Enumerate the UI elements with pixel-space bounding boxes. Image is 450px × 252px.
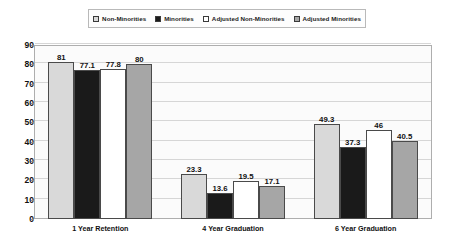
bar-value-label: 49.3 (319, 115, 334, 124)
legend-label: Non-Minorities (102, 15, 146, 22)
x-axis-category-label: 4 Year Graduation (202, 224, 263, 233)
x-axis-category-label: 1 Year Retention (72, 224, 128, 233)
bar-value-label: 23.3 (186, 165, 201, 174)
legend-swatch-icon (93, 16, 99, 22)
bar[interactable]: 19.5 (233, 181, 259, 219)
gridline (35, 43, 431, 44)
bar-value-label: 40.5 (397, 132, 412, 141)
bar[interactable]: 77.1 (74, 70, 100, 219)
y-axis-tick-mark (31, 219, 34, 220)
bar[interactable]: 23.3 (181, 174, 207, 219)
bar[interactable]: 37.3 (340, 147, 366, 219)
x-axis-labels: 1 Year Retention4 Year Graduation6 Year … (34, 224, 432, 238)
legend-label: Adjusted Non-Minorities (212, 15, 285, 22)
bar-value-label: 46 (374, 121, 383, 130)
bar-value-label: 77.1 (80, 61, 95, 70)
bar[interactable]: 46 (366, 130, 392, 219)
bar-group: 8177.177.880 (48, 45, 152, 219)
bar-value-label: 77.8 (106, 60, 121, 69)
bar-chart: Non-Minorities Minorities Adjusted Non-M… (0, 0, 450, 252)
bar[interactable]: 80 (126, 64, 152, 219)
bar[interactable]: 49.3 (314, 124, 340, 219)
bar[interactable]: 77.8 (100, 69, 126, 219)
bar[interactable]: 13.6 (207, 193, 233, 219)
bar-value-label: 13.6 (212, 184, 227, 193)
bar-value-label: 17.1 (264, 177, 279, 186)
bar-value-label: 81 (57, 53, 66, 62)
legend-swatch-icon (294, 16, 300, 22)
bar-groups: 8177.177.88023.313.619.517.149.337.34640… (34, 45, 432, 219)
legend-swatch-icon (155, 16, 161, 22)
y-axis: 0102030405060708090 (0, 45, 34, 219)
bar-group: 49.337.34640.5 (314, 45, 418, 219)
bar[interactable]: 40.5 (392, 141, 418, 219)
bar-value-label: 19.5 (238, 172, 253, 181)
bar-value-label: 80 (135, 55, 144, 64)
bar-group: 23.313.619.517.1 (181, 45, 285, 219)
legend-item-adjusted-minorities: Adjusted Minorities (294, 15, 361, 22)
legend-item-non-minorities: Non-Minorities (93, 15, 146, 22)
legend-item-minorities: Minorities (155, 15, 194, 22)
bar-value-label: 37.3 (345, 138, 360, 147)
legend-label: Minorities (164, 15, 194, 22)
legend-label: Adjusted Minorities (303, 15, 361, 22)
legend-swatch-icon (203, 16, 209, 22)
chart-legend: Non-Minorities Minorities Adjusted Non-M… (88, 9, 366, 28)
bar[interactable]: 81 (48, 62, 74, 219)
x-axis-category-label: 6 Year Graduation (335, 224, 396, 233)
legend-item-adjusted-non-minorities: Adjusted Non-Minorities (203, 15, 285, 22)
bar[interactable]: 17.1 (259, 186, 285, 219)
